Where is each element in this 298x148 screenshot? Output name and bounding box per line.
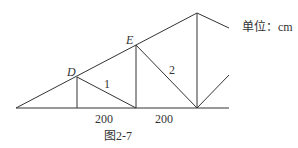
top-right-member	[197, 13, 229, 28]
figure-caption: 图2-7	[104, 129, 132, 143]
member-label-1: 1	[104, 77, 110, 91]
point-label-e: E	[125, 33, 134, 47]
unit-label: 单位：cm	[242, 19, 293, 34]
member-label-2: 2	[169, 63, 175, 77]
dimension-1: 200	[95, 112, 113, 126]
member-2	[136, 45, 197, 108]
top-chord	[16, 13, 197, 108]
dimension-2: 200	[155, 112, 173, 126]
point-label-d: D	[66, 65, 76, 79]
right-diagonal	[197, 75, 229, 108]
truss-diagram: D E 1 2 200 200 单位：cm 图2-7	[0, 0, 298, 148]
